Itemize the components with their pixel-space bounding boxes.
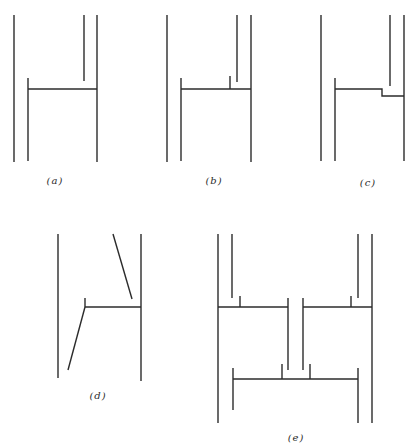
panel-a-label: (a) <box>47 175 64 186</box>
panel-e-drawing <box>218 234 372 423</box>
panel-c-label: (c) <box>360 177 376 188</box>
panel-b-label: (b) <box>205 175 222 186</box>
diagram-canvas <box>0 0 408 444</box>
panel-c-drawing <box>321 15 404 161</box>
panel-d-label: (d) <box>89 390 106 401</box>
panel-a-drawing <box>14 15 97 162</box>
panel-d-drawing <box>58 234 141 381</box>
panel-b-drawing <box>167 15 251 162</box>
panel-e-label: (e) <box>288 432 305 443</box>
